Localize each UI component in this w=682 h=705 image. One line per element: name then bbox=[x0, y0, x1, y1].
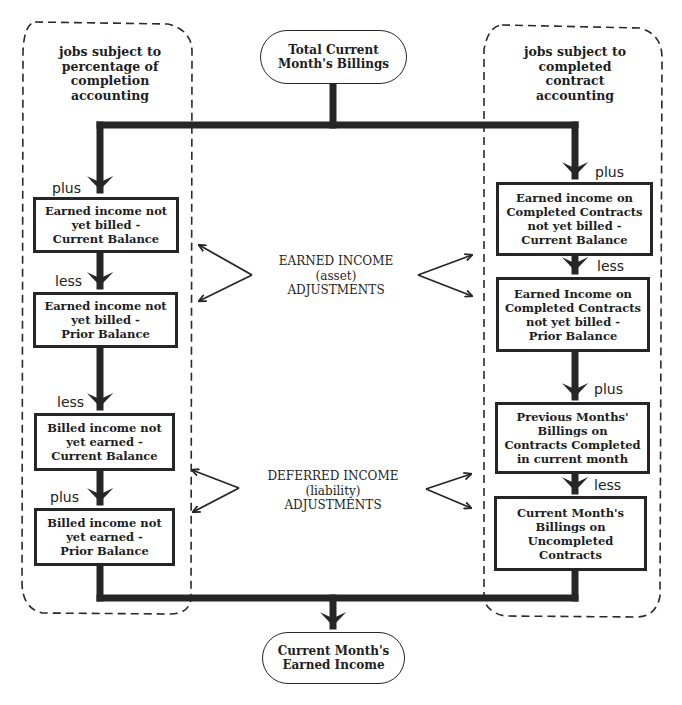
right-region-label: jobs subject to completed contract accou… bbox=[500, 45, 650, 103]
diagram-connectors bbox=[0, 0, 682, 705]
deferred-arrow-left-up bbox=[192, 470, 239, 488]
earned-income-adjustments-label: EARNED INCOME (asset) ADJUSTMENTS bbox=[256, 254, 416, 298]
left-step-3-operator: less bbox=[57, 394, 84, 410]
end-node: Current Month's Earned Income bbox=[262, 632, 405, 684]
left-step-4-box: Billed income not yet earned - Prior Bal… bbox=[34, 508, 175, 566]
earned-arrow-right-up bbox=[418, 255, 472, 275]
deferred-arrow-left-down bbox=[193, 488, 239, 512]
left-step-1-operator: plus bbox=[52, 180, 81, 196]
left-step-3-box: Billed income not yet earned - Current B… bbox=[34, 413, 175, 471]
right-step-1-operator: plus bbox=[595, 164, 624, 180]
right-step-1-box: Earned income on Completed Contracts not… bbox=[496, 182, 653, 256]
left-step-2-operator: less bbox=[55, 273, 82, 289]
left-region-label: jobs subject to percentage of completion… bbox=[40, 45, 180, 103]
right-step-3-box: Previous Months' Billings on Contracts C… bbox=[495, 402, 650, 474]
deferred-income-adjustments-label: DEFERRED INCOME (liability) ADJUSTMENTS bbox=[253, 469, 413, 513]
earned-arrow-right-down bbox=[418, 275, 472, 296]
right-step-2-operator: less bbox=[597, 258, 624, 274]
deferred-arrow-right-up bbox=[426, 474, 471, 489]
left-step-2-box: Earned income not yet billed - Prior Bal… bbox=[33, 292, 178, 348]
right-step-3-operator: plus bbox=[594, 381, 623, 397]
left-step-1-box: Earned income not yet billed - Current B… bbox=[33, 197, 179, 253]
earned-arrow-left-down bbox=[199, 275, 252, 301]
deferred-arrow-right-down bbox=[426, 489, 471, 508]
start-node: Total Current Month's Billings bbox=[260, 30, 407, 84]
right-step-4-box: Current Month's Billings on Uncompleted … bbox=[494, 496, 647, 571]
earned-arrow-left-up bbox=[199, 245, 252, 275]
right-step-2-box: Earned Income on Completed Contracts not… bbox=[496, 277, 650, 352]
right-step-4-operator: less bbox=[594, 477, 621, 493]
left-step-4-operator: plus bbox=[50, 489, 79, 505]
